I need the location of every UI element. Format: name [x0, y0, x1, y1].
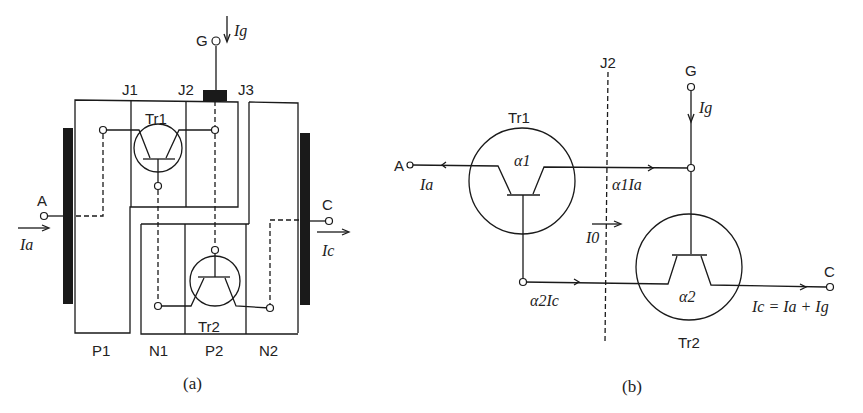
layer-p2-label: P2 — [205, 342, 223, 359]
caption-a: (a) — [183, 374, 202, 393]
junction-j3-label: J3 — [238, 81, 254, 98]
tr1-label: Tr1 — [508, 109, 530, 126]
tr1-circle — [469, 128, 575, 234]
gate-junction-node — [688, 165, 695, 172]
anode-terminal — [407, 162, 413, 168]
cathode-label: C — [824, 263, 835, 280]
tr1-gain-label: α1 — [514, 152, 530, 169]
gate-electrode — [203, 90, 227, 101]
tr1-emitter-lead — [103, 130, 150, 158]
junction-j2-boundary — [605, 72, 608, 342]
anode-current-label: Ia — [419, 176, 433, 193]
tr2-base-node — [212, 247, 219, 254]
anode-label: A — [37, 192, 47, 209]
tr2-label: Tr2 — [678, 334, 700, 351]
anode-label: A — [394, 157, 404, 174]
caption-b: (b) — [622, 377, 642, 396]
gate-label: G — [685, 62, 697, 79]
layer-n1-label: N1 — [149, 342, 168, 359]
tr2-emitter-node — [267, 305, 274, 312]
tr2-emitter-lead — [701, 256, 826, 287]
cathode-terminal — [827, 284, 834, 291]
cathode-current-label: Ic — [321, 242, 334, 259]
anode-electrode — [63, 128, 73, 304]
tr2-gain-label: α2 — [679, 288, 695, 305]
tr2-collector-lead — [523, 256, 677, 284]
anode-to-tr1-dashed — [74, 134, 103, 216]
tr2-emitter-lead — [225, 278, 270, 308]
junction-j2-label: J2 — [178, 81, 194, 98]
tr2-collector-lead — [158, 278, 204, 306]
thyristor-two-transistor-model-figure: G Ig J1 J2 J3 Tr1 Tr2 A — [0, 0, 863, 413]
layer-p1-outline — [75, 100, 238, 333]
cathode-electrode — [300, 133, 310, 305]
tr1-emitter-node — [100, 127, 107, 134]
tr2-to-cathode-dashed — [270, 220, 299, 308]
tr1-collector-node — [212, 127, 219, 134]
alpha2-current-arrowhead — [574, 279, 579, 285]
gate-label: G — [196, 32, 208, 49]
anode-terminal — [41, 213, 48, 220]
tr1-base-node — [155, 183, 162, 190]
alpha1-current-label: α1Ia — [612, 176, 642, 193]
gate-terminal — [688, 84, 695, 91]
gate-current-label: Ig — [698, 99, 712, 117]
layer-n2-label: N2 — [259, 342, 278, 359]
layer-n2-outline — [249, 102, 298, 333]
tr1-collector-lead — [166, 130, 215, 158]
cathode-terminal — [326, 218, 333, 225]
alpha2-current-label: α2Ic — [530, 292, 559, 309]
tr2-label: Tr2 — [198, 318, 220, 335]
tr1-base-node — [520, 279, 527, 286]
gate-current-label: Ig — [233, 22, 247, 40]
anode-current-label: Ia — [19, 236, 33, 253]
junction-j1-label: J1 — [122, 81, 138, 98]
leakage-current-label: I0 — [585, 229, 599, 246]
output-current-equation: Ic = Ia + Ig — [751, 298, 829, 316]
tr2-collector-node — [155, 303, 162, 310]
gate-terminal — [212, 37, 220, 45]
tr1-label: Tr1 — [145, 110, 167, 127]
diagram-b: J2 Tr1 α1 A Ia α1Ia G Ig I0 — [394, 54, 835, 396]
diagram-a: G Ig J1 J2 J3 Tr1 Tr2 A — [18, 16, 349, 393]
junction-j2-label: J2 — [600, 54, 616, 71]
layer-p1-label: P1 — [92, 342, 110, 359]
cathode-label: C — [322, 196, 333, 213]
